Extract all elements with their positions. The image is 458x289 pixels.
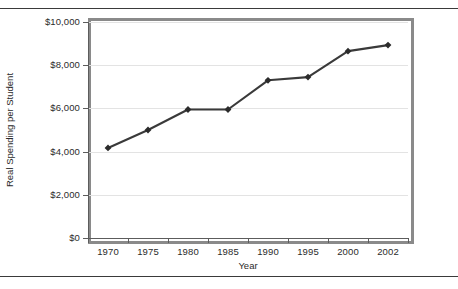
x-axis-tick-label: 2000 [337,246,359,257]
x-axis-tick [208,238,209,243]
x-axis-tick-label: 1970 [97,246,119,257]
x-axis-tick [88,238,89,243]
x-axis-tick-label: 2002 [377,246,399,257]
x-axis-tick [288,238,289,243]
y-axis-tick-label: $6,000 [50,102,80,113]
y-axis-title: Real Spending per Student [4,50,15,210]
y-axis-tick-label: $8,000 [50,59,80,70]
x-axis-tick-label: 1985 [217,246,239,257]
bottom-rule [0,276,458,277]
y-axis-tick-label: $10,000 [45,16,80,27]
x-axis-tick [368,238,369,243]
y-axis-tick-label: $0 [69,232,80,243]
top-rule [0,8,458,9]
x-axis-tick-label: 1975 [137,246,159,257]
x-axis-tick [128,238,129,243]
x-axis-tick-label: 1990 [257,246,279,257]
x-axis-tick [168,238,169,243]
x-axis-tick [328,238,329,243]
y-axis-tick-label: $2,000 [50,189,80,200]
chart-figure: $0$2,000$4,000$6,000$8,000$10,000 197019… [0,0,458,289]
y-axis-tick-label: $4,000 [50,146,80,157]
x-axis-tick [408,238,409,243]
series-line [108,45,388,148]
data-point-marker [385,42,392,49]
data-series-line [88,22,408,238]
x-axis-tick-label: 1980 [177,246,199,257]
data-point-marker [105,145,112,152]
x-axis-title: Year [88,260,408,271]
x-axis-tick-label: 1995 [297,246,319,257]
x-axis-tick [248,238,249,243]
